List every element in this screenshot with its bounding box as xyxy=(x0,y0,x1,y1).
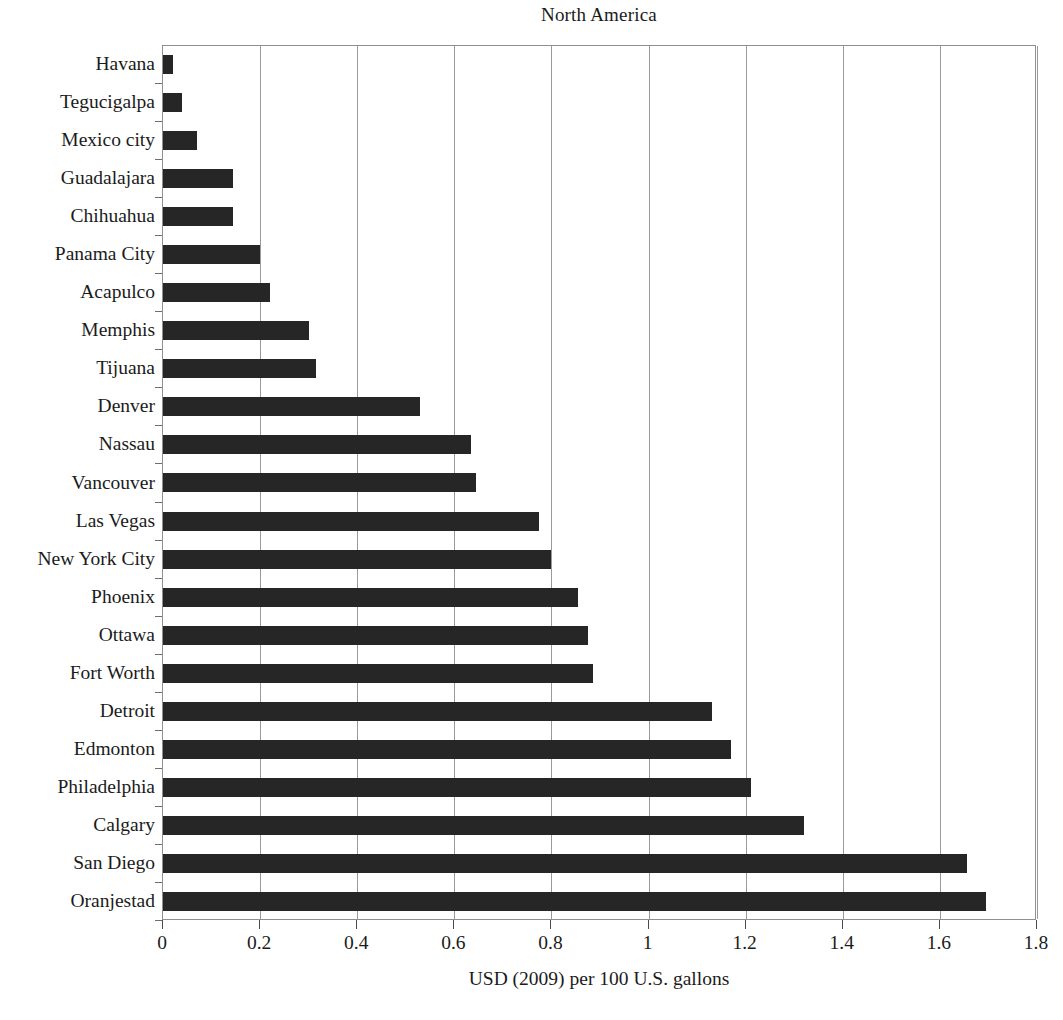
bar[interactable] xyxy=(163,359,316,378)
y-axis-tick-label: Calgary xyxy=(0,815,155,835)
bar[interactable] xyxy=(163,397,420,416)
y-axis-tick-label: Denver xyxy=(0,396,155,416)
bar[interactable] xyxy=(163,702,712,721)
x-axis-tick-label: 0.4 xyxy=(344,932,368,954)
plot-area xyxy=(162,45,1036,920)
y-axis-tick-label: New York City xyxy=(0,549,155,569)
y-axis-tick xyxy=(155,920,162,921)
y-axis-tick-label: Mexico city xyxy=(0,130,155,150)
y-axis-tick-label: Philadelphia xyxy=(0,777,155,797)
bar[interactable] xyxy=(163,778,751,797)
x-axis-tick xyxy=(1036,920,1037,929)
x-axis-tick xyxy=(842,920,843,929)
y-axis-tick xyxy=(155,197,162,198)
y-axis-tick-label: Acapulco xyxy=(0,282,155,302)
x-axis-title: USD (2009) per 100 U.S. gallons xyxy=(162,968,1036,990)
x-axis-tick-label: 1.8 xyxy=(1024,932,1048,954)
y-axis-tick-label: Chihuahua xyxy=(0,206,155,226)
x-axis-tick xyxy=(745,920,746,929)
bar[interactable] xyxy=(163,283,270,302)
y-axis-tick xyxy=(155,273,162,274)
y-axis-tick-label: Oranjestad xyxy=(0,891,155,911)
y-axis-tick-label: Edmonton xyxy=(0,739,155,759)
y-axis-tick xyxy=(155,121,162,122)
y-axis-tick xyxy=(155,540,162,541)
bar[interactable] xyxy=(163,169,233,188)
x-axis-tick xyxy=(162,920,163,929)
x-axis-tick-label: 1.4 xyxy=(830,932,854,954)
y-axis-tick-label: Tijuana xyxy=(0,358,155,378)
x-axis-tick xyxy=(939,920,940,929)
bar[interactable] xyxy=(163,854,967,873)
x-axis-tick-label: 1.6 xyxy=(927,932,951,954)
y-axis-tick xyxy=(155,844,162,845)
bar[interactable] xyxy=(163,245,260,264)
y-axis-tick xyxy=(155,425,162,426)
y-axis-tick xyxy=(155,616,162,617)
y-axis-tick-label: Las Vegas xyxy=(0,511,155,531)
y-axis-tick-label: Ottawa xyxy=(0,625,155,645)
x-axis-tick-label: 0.2 xyxy=(247,932,271,954)
y-axis-tick xyxy=(155,730,162,731)
y-axis-tick xyxy=(155,387,162,388)
x-axis-tick-label: 0.6 xyxy=(441,932,465,954)
bar[interactable] xyxy=(163,55,173,74)
x-axis-tick-label: 1.2 xyxy=(732,932,756,954)
x-axis-tick xyxy=(259,920,260,929)
bar[interactable] xyxy=(163,588,578,607)
bar[interactable] xyxy=(163,131,197,150)
bar[interactable] xyxy=(163,512,539,531)
y-axis-tick xyxy=(155,311,162,312)
y-axis-tick-label: Nassau xyxy=(0,434,155,454)
y-axis-tick xyxy=(155,83,162,84)
y-axis-tick xyxy=(155,349,162,350)
y-axis-tick xyxy=(155,578,162,579)
x-axis-tick xyxy=(550,920,551,929)
x-axis-tick-label: 1 xyxy=(643,932,653,954)
y-axis-tick-label: Detroit xyxy=(0,701,155,721)
y-axis-tick xyxy=(155,654,162,655)
y-axis-tick xyxy=(155,235,162,236)
bar[interactable] xyxy=(163,93,182,112)
x-axis-tick-label: 0.8 xyxy=(538,932,562,954)
y-axis-tick-label: Phoenix xyxy=(0,587,155,607)
gridline xyxy=(1037,46,1038,919)
y-axis-tick xyxy=(155,159,162,160)
y-axis-tick xyxy=(155,502,162,503)
bar[interactable] xyxy=(163,664,593,683)
y-axis-tick-label: Panama City xyxy=(0,244,155,264)
y-axis-tick xyxy=(155,463,162,464)
bars-layer xyxy=(163,46,1035,919)
x-axis-tick xyxy=(356,920,357,929)
bar[interactable] xyxy=(163,626,588,645)
y-axis-tick-label: San Diego xyxy=(0,853,155,873)
y-axis-tick xyxy=(155,882,162,883)
x-axis-tick xyxy=(453,920,454,929)
bar[interactable] xyxy=(163,816,804,835)
chart-title: North America xyxy=(162,4,1036,26)
y-axis-tick-label: Vancouver xyxy=(0,473,155,493)
y-axis-tick-label: Memphis xyxy=(0,320,155,340)
y-axis-tick-label: Fort Worth xyxy=(0,663,155,683)
y-axis-tick-label: Guadalajara xyxy=(0,168,155,188)
bar[interactable] xyxy=(163,321,309,340)
bar[interactable] xyxy=(163,740,731,759)
bar[interactable] xyxy=(163,207,233,226)
bar[interactable] xyxy=(163,550,551,569)
y-axis-tick-label: Havana xyxy=(0,54,155,74)
y-axis-tick xyxy=(155,768,162,769)
bar-chart: North America HavanaTegucigalpaMexico ci… xyxy=(0,0,1063,1020)
y-axis-labels: HavanaTegucigalpaMexico cityGuadalajaraC… xyxy=(0,45,155,920)
x-axis-tick-label: 0 xyxy=(157,932,167,954)
x-axis-tick xyxy=(648,920,649,929)
y-axis-tick xyxy=(155,692,162,693)
bar[interactable] xyxy=(163,892,986,911)
bar[interactable] xyxy=(163,435,471,454)
bar[interactable] xyxy=(163,473,476,492)
y-axis-tick-label: Tegucigalpa xyxy=(0,92,155,112)
y-axis-tick xyxy=(155,806,162,807)
